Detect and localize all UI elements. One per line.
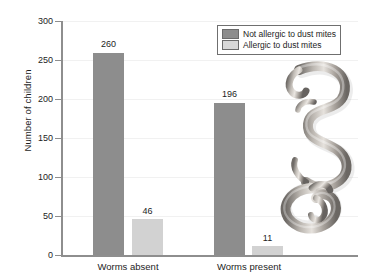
- y-tick-label-200: 200: [13, 95, 53, 104]
- y-tick-0: [55, 255, 61, 256]
- roundworm-illustration: [268, 56, 367, 246]
- y-tick-50: [55, 216, 61, 217]
- y-tick-label-50: 50: [13, 212, 53, 221]
- y-tick-label-0: 0: [13, 251, 53, 260]
- bar-value-196: 196: [214, 90, 245, 99]
- bar-worms-present-allergic: [252, 246, 283, 255]
- bar-worms-present-not-allergic: [214, 103, 245, 255]
- y-tick-250: [55, 60, 61, 61]
- legend-label-allergic: Allergic to dust mites: [243, 41, 321, 50]
- y-axis-label: Number of children: [22, 31, 33, 191]
- x-category-label-worms-absent: Worms absent: [88, 261, 168, 272]
- x-category-label-worms-present: Worms present: [208, 261, 290, 272]
- y-tick-label-250: 250: [13, 56, 53, 65]
- y-tick-label-300: 300: [13, 17, 53, 26]
- y-tick-300: [55, 21, 61, 22]
- legend-item-allergic[interactable]: Allergic to dust mites: [222, 40, 336, 50]
- legend-swatch-icon-not-allergic: [222, 29, 239, 39]
- y-axis-line: [61, 21, 63, 256]
- gridline-300: [63, 21, 358, 22]
- bar-worms-absent-not-allergic: [93, 53, 124, 255]
- bar-worms-absent-allergic: [132, 219, 163, 255]
- bar-value-46: 46: [132, 207, 163, 216]
- bar-chart: Number of children 300 250 200 150 100 5…: [0, 0, 367, 278]
- y-tick-label-150: 150: [13, 134, 53, 143]
- legend: Not allergic to dust mites Allergic to d…: [217, 25, 341, 55]
- bar-value-260: 260: [93, 40, 124, 49]
- bar-value-11: 11: [252, 234, 283, 243]
- y-tick-200: [55, 99, 61, 100]
- legend-label-not-allergic: Not allergic to dust mites: [243, 30, 336, 39]
- y-tick-150: [55, 138, 61, 139]
- legend-swatch-icon-allergic: [222, 40, 239, 50]
- y-tick-100: [55, 177, 61, 178]
- legend-item-not-allergic[interactable]: Not allergic to dust mites: [222, 29, 336, 39]
- y-tick-label-100: 100: [13, 173, 53, 182]
- x-axis-line: [61, 255, 358, 257]
